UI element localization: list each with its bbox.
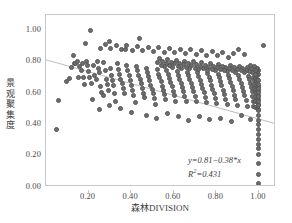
- data-point: [116, 67, 121, 72]
- data-point: [184, 99, 189, 104]
- data-point: [106, 88, 111, 93]
- data-point: [94, 77, 99, 82]
- data-point: [194, 99, 199, 104]
- scatter-plot-figure: 0.000.200.400.600.801.00 景观聚集度 0.200.400…: [0, 0, 292, 223]
- data-point: [194, 52, 199, 57]
- data-point: [108, 66, 113, 71]
- data-point: [56, 98, 61, 103]
- data-point: [176, 114, 181, 119]
- data-point: [115, 61, 120, 66]
- x-tick-label: 1.00: [238, 192, 278, 201]
- data-point: [210, 49, 215, 54]
- data-point: [152, 96, 157, 101]
- data-point: [114, 43, 119, 48]
- data-point: [172, 93, 177, 98]
- data-point: [142, 95, 147, 100]
- data-point: [229, 119, 234, 124]
- data-point: [225, 102, 230, 107]
- y-tick-mark: [38, 123, 41, 124]
- y-tick-label: 1.00: [1, 25, 41, 34]
- data-point: [220, 50, 225, 55]
- data-point: [108, 46, 113, 51]
- data-point: [133, 100, 138, 105]
- data-point: [85, 63, 90, 68]
- data-point: [204, 53, 209, 58]
- y-tick-mark: [38, 61, 41, 62]
- data-point: [207, 117, 212, 122]
- data-point: [233, 97, 238, 102]
- x-tick-label: 0.60: [153, 192, 193, 201]
- x-axis-ticks: 0.200.400.600.801.00: [45, 190, 275, 202]
- data-point: [103, 68, 108, 73]
- data-point: [130, 88, 135, 93]
- data-point: [226, 55, 231, 60]
- data-point: [122, 91, 127, 96]
- data-point: [110, 78, 115, 83]
- data-point: [88, 28, 93, 33]
- data-point: [107, 103, 112, 108]
- data-point: [153, 102, 158, 107]
- data-point: [256, 152, 261, 157]
- data-point: [83, 41, 88, 46]
- data-point: [104, 77, 109, 82]
- data-point: [173, 99, 178, 104]
- data-point: [113, 99, 118, 104]
- data-point: [214, 101, 219, 106]
- y-tick-label: 0.20: [1, 150, 41, 159]
- data-point: [248, 117, 253, 122]
- data-point: [120, 81, 125, 86]
- data-point: [105, 82, 110, 87]
- x-tick-mark: [215, 190, 216, 193]
- r-squared-value: =0.431: [196, 168, 221, 178]
- data-point: [97, 107, 102, 112]
- data-point: [186, 118, 191, 123]
- data-point: [140, 48, 145, 53]
- data-point: [223, 97, 228, 102]
- data-point: [172, 50, 177, 55]
- data-point: [54, 127, 59, 132]
- data-point: [144, 113, 149, 118]
- x-tick-label: 0.80: [195, 192, 235, 201]
- x-tick-mark: [88, 190, 89, 193]
- data-point: [183, 51, 188, 56]
- x-tick-mark: [258, 190, 259, 193]
- data-point: [154, 116, 159, 121]
- data-point: [242, 52, 247, 57]
- data-point: [129, 110, 134, 115]
- data-point: [87, 75, 92, 80]
- data-point: [236, 47, 241, 52]
- data-point: [69, 65, 74, 70]
- data-point: [79, 68, 84, 73]
- y-tick-label: 0.80: [1, 56, 41, 65]
- regression-annotation: y=0.81−0.38*x R2=0.431: [188, 155, 241, 179]
- data-point: [165, 111, 170, 116]
- data-point: [156, 45, 161, 50]
- data-point: [95, 59, 100, 64]
- x-axis-title: 森林DIVISION: [45, 203, 275, 214]
- data-point: [137, 36, 142, 41]
- data-point: [146, 45, 151, 50]
- data-point: [111, 83, 116, 88]
- data-point: [213, 96, 218, 101]
- data-point: [90, 97, 95, 102]
- data-point: [167, 46, 172, 51]
- data-point: [178, 47, 183, 52]
- data-point: [239, 113, 244, 118]
- data-point: [89, 81, 94, 86]
- x-tick-label: 0.40: [110, 192, 150, 201]
- data-point: [124, 43, 129, 48]
- data-point: [256, 172, 261, 177]
- data-point: [98, 84, 103, 89]
- data-point: [197, 114, 202, 119]
- y-tick-label: 0.00: [1, 182, 41, 191]
- data-point: [244, 98, 249, 103]
- data-point: [118, 106, 123, 111]
- y-axis-title: 景观聚集度: [4, 78, 16, 131]
- data-point: [245, 104, 250, 109]
- data-point: [130, 48, 135, 53]
- data-point: [256, 161, 261, 166]
- data-point: [188, 47, 193, 52]
- data-point: [218, 116, 223, 121]
- data-point: [235, 103, 240, 108]
- data-point: [97, 70, 102, 75]
